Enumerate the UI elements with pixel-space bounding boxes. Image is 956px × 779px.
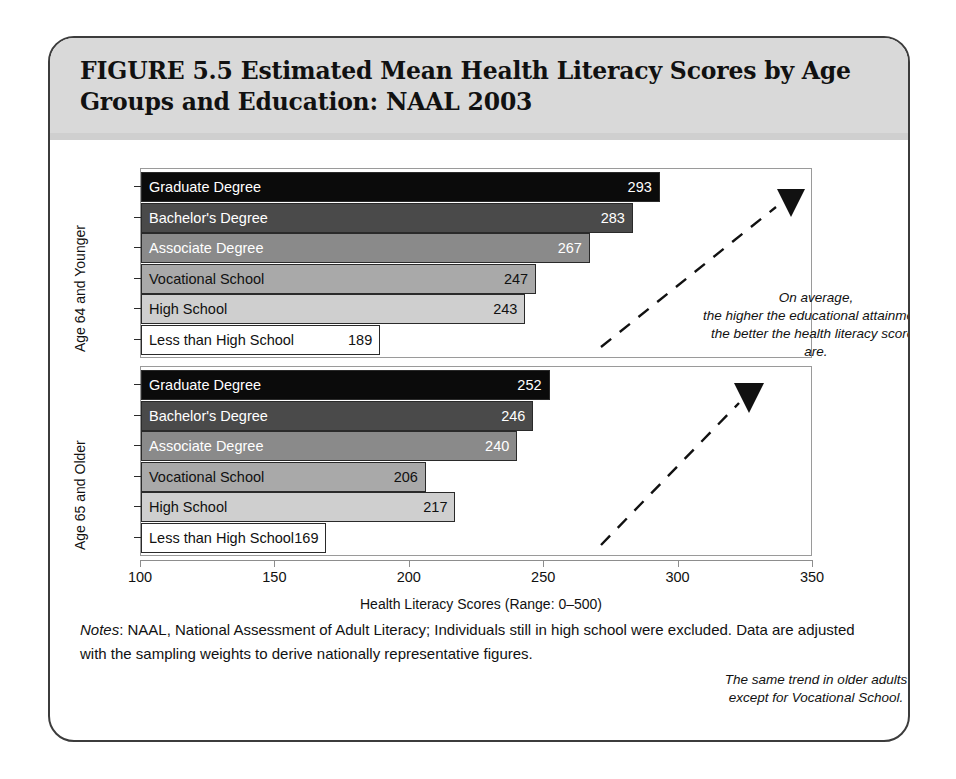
bar-row: Vocational School206 (141, 462, 813, 492)
bar-row: Graduate Degree293 (141, 172, 813, 202)
bar-value-graduate: 252 (504, 370, 542, 400)
bar-row: Bachelor's Degree283 (141, 203, 813, 233)
y-axis-tick (134, 217, 141, 218)
y-axis-tick (134, 247, 141, 248)
bar-label-vocational: Vocational School (149, 462, 264, 492)
x-axis-title: Health Literacy Scores (Range: 0–500) (50, 596, 910, 612)
bar-row: Bachelor's Degree246 (141, 401, 813, 431)
x-axis-tick (140, 560, 141, 567)
x-axis-tick (274, 560, 275, 567)
x-axis-tick-label: 300 (665, 569, 689, 585)
bar-row: High School217 (141, 492, 813, 522)
bar-row: Less than High School169 (141, 523, 813, 553)
y-axis-title-young: Age 64 and Younger (72, 225, 88, 352)
bar-row: Associate Degree267 (141, 233, 813, 263)
x-axis-tick (678, 560, 679, 567)
x-axis-tick-label: 250 (531, 569, 555, 585)
x-axis-tick-label: 100 (128, 569, 152, 585)
panel-age-64-and-younger: On average, the higher the educational a… (140, 168, 812, 358)
bar-label-graduate: Graduate Degree (149, 370, 261, 400)
y-axis-tick (134, 308, 141, 309)
figure-title: FIGURE 5.5 Estimated Mean Health Literac… (80, 56, 870, 118)
bar-value-high_school: 217 (409, 492, 447, 522)
bar-value-less_than_high_school: 189 (334, 325, 372, 355)
y-axis-tick (134, 445, 141, 446)
y-axis-tick (134, 339, 141, 340)
notes-label: Notes (80, 621, 119, 638)
bar-label-bachelor: Bachelor's Degree (149, 203, 268, 233)
y-axis-title-old: Age 65 and Older (72, 440, 88, 550)
x-axis-line (140, 560, 812, 561)
bar-row: Graduate Degree252 (141, 370, 813, 400)
y-axis-tick (134, 384, 141, 385)
bar-label-high_school: High School (149, 294, 227, 324)
y-axis-tick (134, 537, 141, 538)
y-axis-tick (134, 186, 141, 187)
bar-row: Less than High School189 (141, 325, 813, 355)
bar-label-less_than_high_school: Less than High School (149, 523, 294, 553)
y-axis-tick (134, 278, 141, 279)
x-axis-tick (812, 560, 813, 567)
x-axis-tick-label: 150 (262, 569, 286, 585)
x-axis-tick (543, 560, 544, 567)
bar-value-bachelor: 246 (487, 401, 525, 431)
bar-row: High School243 (141, 294, 813, 324)
bar-row: Associate Degree240 (141, 431, 813, 461)
bar-label-less_than_high_school: Less than High School (149, 325, 294, 355)
figure-notes: Notes: NAAL, National Assessment of Adul… (80, 618, 860, 666)
bar-value-bachelor: 283 (587, 203, 625, 233)
bar-label-high_school: High School (149, 492, 227, 522)
bar-value-vocational: 206 (380, 462, 418, 492)
bar-value-vocational: 247 (490, 264, 528, 294)
y-axis-tick (134, 415, 141, 416)
y-axis-tick (134, 476, 141, 477)
bar-label-vocational: Vocational School (149, 264, 264, 294)
panel-age-65-and-older: The same trend in older adults except fo… (140, 366, 812, 556)
notes-text: : NAAL, National Assessment of Adult Lit… (80, 621, 855, 662)
x-axis-tick (409, 560, 410, 567)
bar-label-associate: Associate Degree (149, 431, 263, 461)
bar-value-high_school: 243 (479, 294, 517, 324)
bar-value-graduate: 293 (614, 172, 652, 202)
figure-card: FIGURE 5.5 Estimated Mean Health Literac… (48, 36, 910, 742)
bar-value-associate: 240 (471, 431, 509, 461)
figure-header-band: FIGURE 5.5 Estimated Mean Health Literac… (50, 38, 908, 140)
bar-label-bachelor: Bachelor's Degree (149, 401, 268, 431)
bar-row: Vocational School247 (141, 264, 813, 294)
x-axis-tick-label: 200 (397, 569, 421, 585)
bar-label-graduate: Graduate Degree (149, 172, 261, 202)
bar-value-less_than_high_school: 169 (280, 523, 318, 553)
x-axis-tick-label: 350 (800, 569, 824, 585)
y-axis-tick (134, 506, 141, 507)
annotation-old: The same trend in older adults except fo… (701, 671, 910, 707)
bar-value-associate: 267 (544, 233, 582, 263)
bar-label-associate: Associate Degree (149, 233, 263, 263)
